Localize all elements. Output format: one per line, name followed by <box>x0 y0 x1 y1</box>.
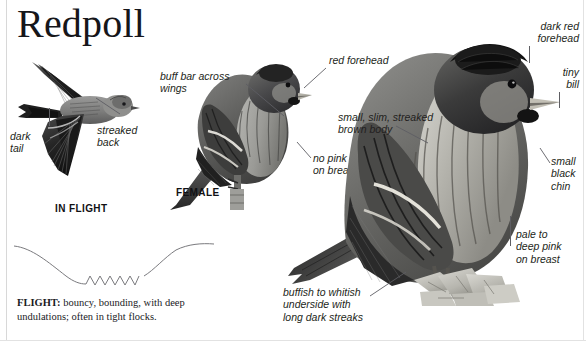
field-guide-plate: Redpoll <box>0 0 586 341</box>
leader-line-tiny-bill <box>559 92 560 108</box>
annotation-buff-bar: buff bar across wings <box>160 70 229 95</box>
annotation-dark-red-forehead: dark red forehead <box>495 20 579 45</box>
annotation-buffish-underside: buffish to whitish underside with long d… <box>283 286 363 323</box>
plate-left-border <box>6 0 7 341</box>
leader-line-dark-tail <box>49 108 50 126</box>
flight-path-diagram <box>14 240 214 290</box>
page-title: Redpoll <box>17 2 145 46</box>
annotation-dark-tail: dark tail <box>10 130 30 155</box>
annotation-small-black-chin: small black chin <box>551 155 576 192</box>
leader-line-dark-red-forehead <box>529 46 530 63</box>
annotation-pale-to-deep-pink: pale to deep pink on breast <box>516 228 562 265</box>
annotation-streaked-back: streaked back <box>97 124 137 149</box>
annotation-tiny-bill: tiny bill <box>520 66 579 91</box>
annotation-small-slim-streaked-body: small, slim, streaked brown body <box>338 111 433 136</box>
plate-right-border <box>583 0 584 341</box>
flight-caption-label: FLIGHT: <box>17 297 61 308</box>
caption-in-flight: IN FLIGHT <box>55 203 107 214</box>
leader-line-pale-deep-pink <box>510 216 511 246</box>
flight-caption: FLIGHT: bouncy, bounding, with deep undu… <box>17 296 232 324</box>
bird-illustration-in-flight <box>18 58 153 178</box>
caption-female: FEMALE <box>176 187 220 198</box>
